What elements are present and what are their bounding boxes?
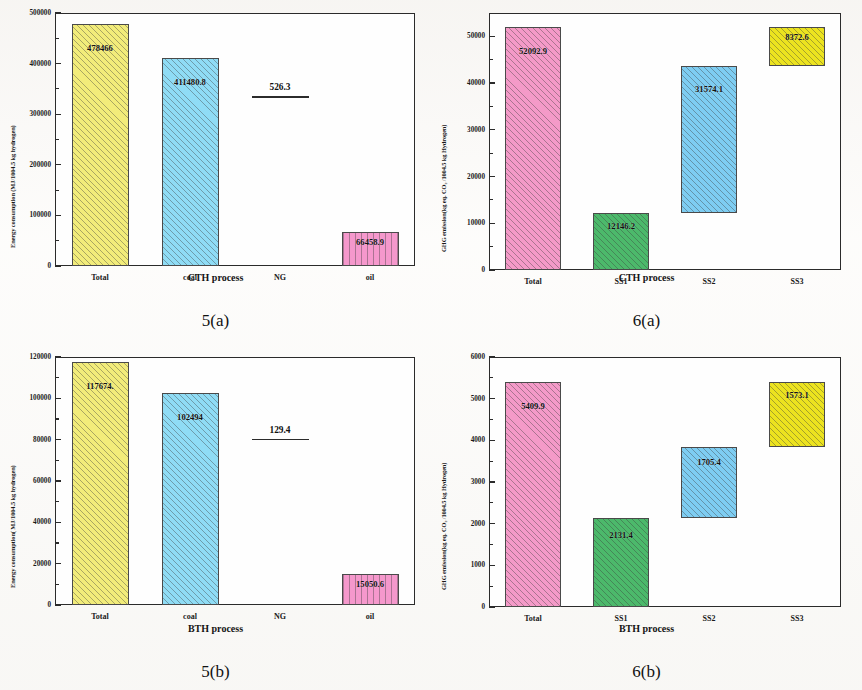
y-axis-tick-mark — [489, 176, 495, 177]
bar-value-label: 1573.1 — [785, 390, 809, 400]
y-axis-minor-tick — [55, 139, 59, 140]
y-axis-tick-mark — [489, 440, 495, 441]
y-axis-minor-tick — [55, 542, 59, 543]
y-axis-tick-mark — [489, 129, 495, 130]
bar-value-label: 102494 — [177, 412, 203, 422]
bar: 411480.8 — [162, 58, 219, 266]
y-axis-tick-label: 20000 — [467, 173, 485, 181]
y-axis-tick-mark — [489, 223, 495, 224]
y-axis-tick-label: 5000 — [471, 395, 485, 403]
y-axis-tick-label: 500000 — [29, 9, 51, 17]
y-axis-minor-tick — [55, 460, 59, 461]
y-axis-tick-label: 30000 — [467, 126, 485, 134]
y-axis-minor-tick — [489, 461, 493, 462]
y-axis-minor-tick — [55, 418, 59, 419]
y-axis-tick-label: 0 — [47, 262, 51, 270]
y-axis-tick-label: 1000 — [471, 561, 485, 569]
y-axis-minor-tick — [55, 38, 59, 39]
y-axis-tick-label: 40000 — [467, 79, 485, 87]
bar: 52092.9 — [505, 27, 561, 270]
y-axis-tick-label: 80000 — [33, 436, 51, 444]
y-axis-tick-label: 60000 — [33, 477, 51, 485]
y-axis-minor-tick — [489, 586, 493, 587]
y-axis-minor-tick — [489, 199, 493, 200]
chart-6b-xlabel: BTH process — [431, 623, 862, 634]
bar-value-label: 52092.9 — [519, 46, 547, 56]
panel-6a: 01000020000300004000050000GHG emission(k… — [431, 0, 862, 345]
y-axis-tick-mark — [489, 606, 495, 607]
chart-6b: 0100020003000400050006000GHG emission(kg… — [431, 345, 862, 690]
y-axis-tick-mark — [489, 481, 495, 482]
y-axis-tick-mark — [489, 36, 495, 37]
chart-6a-caption: 6(a) — [431, 311, 862, 331]
bar: 31574.1 — [681, 66, 737, 214]
bar: 5409.9 — [505, 382, 561, 607]
y-axis-minor-tick — [55, 584, 59, 585]
bar: 1705.4 — [681, 447, 737, 518]
y-axis-tick-mark — [55, 439, 61, 440]
chart-5a-caption: 5(a) — [0, 311, 431, 331]
panel-5b: 020000400006000080000100000120000Energy … — [0, 345, 431, 690]
y-axis-tick-label: 50000 — [467, 32, 485, 40]
bar-value-label: 2131.4 — [609, 530, 633, 540]
x-axis-tick-label: coal — [183, 612, 197, 621]
y-axis-tick-mark — [489, 398, 495, 399]
y-axis-minor-tick — [55, 88, 59, 89]
y-axis-tick-mark — [489, 356, 495, 357]
y-axis-tick-mark — [55, 215, 61, 216]
bar-value-label: 66458.9 — [356, 237, 384, 247]
x-axis-tick-label: oil — [366, 612, 374, 621]
bar: 1573.1 — [769, 382, 825, 448]
chart-5b: 020000400006000080000100000120000Energy … — [0, 345, 431, 690]
y-axis-tick-mark — [55, 604, 61, 605]
chart-5b-caption: 5(b) — [0, 662, 431, 682]
y-axis-tick-mark — [489, 523, 495, 524]
y-axis-minor-tick — [55, 501, 59, 502]
bar-value-label: 526.3 — [269, 82, 290, 92]
y-axis-minor-tick — [489, 419, 493, 420]
chart-6a-xlabel: CTH process — [431, 272, 862, 283]
x-axis-tick-label: SS2 — [703, 614, 716, 623]
bar-value-label: 8372.6 — [785, 32, 809, 42]
y-axis-tick-label: 300000 — [29, 110, 51, 118]
y-axis-tick-label: 3000 — [471, 478, 485, 486]
y-axis-tick-mark — [489, 82, 495, 83]
chart-5a-xlabel: CTH process — [0, 272, 431, 283]
y-axis-tick-label: 10000 — [467, 219, 485, 227]
y-axis-tick-mark — [55, 356, 61, 357]
bar: 117674. — [72, 362, 129, 605]
y-axis-minor-tick — [489, 153, 493, 154]
panel-5a: 0100000200000300000400000500000Energy co… — [0, 0, 431, 345]
bar-value-label: 411480.8 — [174, 77, 206, 87]
y-axis-tick-mark — [55, 398, 61, 399]
y-axis-tick-mark — [55, 563, 61, 564]
y-axis-tick-mark — [55, 522, 61, 523]
y-axis-minor-tick — [489, 377, 493, 378]
chart-5a: 0100000200000300000400000500000Energy co… — [0, 0, 431, 345]
bar: 102494 — [162, 393, 219, 605]
y-axis-minor-tick — [55, 190, 59, 191]
y-axis-minor-tick — [489, 59, 493, 60]
zero-value-marker — [252, 96, 309, 98]
y-axis-minor-tick — [489, 106, 493, 107]
y-axis-tick-label: 2000 — [471, 520, 485, 528]
bar-value-label: 5409.9 — [521, 401, 545, 411]
y-axis-minor-tick — [489, 246, 493, 247]
y-axis-tick-label: 0 — [481, 603, 485, 611]
y-axis-tick-mark — [55, 265, 61, 266]
x-axis-tick-label: Total — [91, 612, 109, 621]
y-axis-minor-tick — [55, 240, 59, 241]
y-axis-tick-label: 0 — [47, 601, 51, 609]
y-axis-title: Energy consumption (MJ/1004.5 kg hydroge… — [9, 126, 16, 249]
y-axis-title: GHG emission(kg eq. CO₂ /1004.5 kg Hydro… — [440, 125, 447, 252]
bar: 8372.6 — [769, 27, 825, 66]
y-axis-tick-label: 4000 — [471, 436, 485, 444]
y-axis-tick-mark — [55, 480, 61, 481]
bar-value-label: 1705.4 — [697, 457, 721, 467]
y-axis-tick-mark — [55, 164, 61, 165]
x-axis-tick-label: SS3 — [791, 614, 804, 623]
bar: 478466 — [72, 24, 129, 266]
chart-5b-xlabel: BTH process — [0, 623, 431, 634]
y-axis-title: GHG emission(kg eq. CO₂ /1004.5 kg Hydro… — [440, 462, 447, 589]
x-axis-tick-label: Total — [524, 614, 542, 623]
